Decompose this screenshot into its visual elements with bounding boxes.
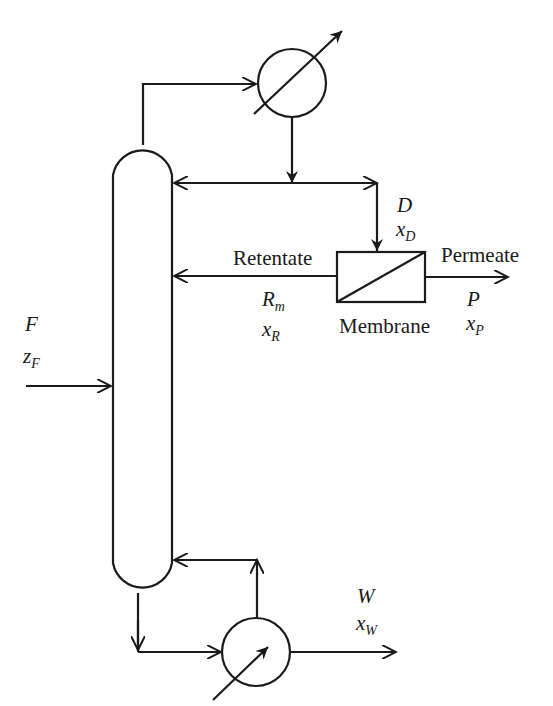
process-diagram: F zF D xD Retentate Rm xR Permeate P xP …: [0, 0, 553, 706]
membrane-unit: [337, 252, 425, 302]
overhead-vapor-line: [143, 84, 256, 145]
bottoms-composition-label: xW: [355, 611, 378, 638]
feed-composition-label: zF: [22, 344, 40, 371]
retentate-flow-label: Rm: [261, 287, 285, 314]
feed-label: F: [24, 312, 38, 336]
permeate-label: Permeate: [441, 243, 519, 267]
bottoms-label: W: [357, 584, 377, 608]
retentate-composition-label: xR: [261, 317, 280, 344]
reboiler: [213, 618, 290, 700]
permeate-composition-label: xP: [465, 311, 484, 338]
distillation-column: [113, 150, 172, 587]
distillate-label: D: [396, 193, 412, 217]
condenser: [254, 31, 342, 117]
distillate-composition-label: xD: [395, 217, 415, 244]
membrane-label: Membrane: [339, 314, 430, 338]
permeate-flow-label: P: [466, 287, 480, 311]
retentate-label: Retentate: [233, 246, 312, 270]
